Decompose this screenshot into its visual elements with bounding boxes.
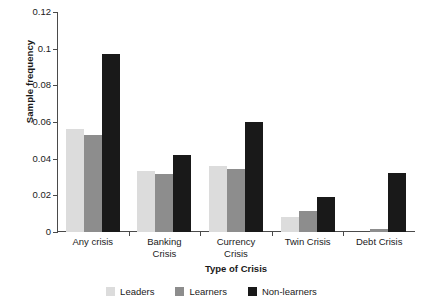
y-tick-label: 0.02 bbox=[3, 191, 51, 201]
plot-area: 00.020.040.060.080.10.12 bbox=[57, 12, 415, 232]
bar-group bbox=[66, 12, 120, 232]
x-axis-title: Type of Crisis bbox=[57, 263, 415, 274]
bar-leaders bbox=[137, 171, 155, 232]
bar-group bbox=[209, 12, 263, 232]
y-tick-label: 0.04 bbox=[3, 154, 51, 164]
x-category-label-line: Any crisis bbox=[57, 236, 129, 248]
bar-non-learners bbox=[388, 173, 406, 232]
bar-learners bbox=[370, 229, 388, 232]
bar-leaders bbox=[281, 217, 299, 232]
bar-non-learners bbox=[102, 54, 120, 232]
legend-item[interactable]: Leaders bbox=[106, 286, 154, 297]
bar-group bbox=[352, 12, 406, 232]
bar-leaders bbox=[66, 129, 84, 232]
bar-learners bbox=[84, 135, 102, 232]
x-category-label: BankingCrisis bbox=[129, 236, 201, 259]
bar-learners bbox=[155, 174, 173, 232]
legend-swatch-icon bbox=[106, 287, 115, 296]
y-tick-label: 0.08 bbox=[3, 81, 51, 91]
bar-non-learners bbox=[173, 155, 191, 232]
bar-groups bbox=[57, 12, 415, 232]
x-category-label-line: Twin Crisis bbox=[272, 236, 344, 248]
x-category-label-line: Crisis bbox=[129, 248, 201, 260]
bar-learners bbox=[299, 211, 317, 232]
x-category-label: CurrencyCrisis bbox=[200, 236, 272, 259]
bar-leaders bbox=[209, 166, 227, 232]
bar-chart: Sample frequency 00.020.040.060.080.10.1… bbox=[0, 0, 423, 308]
bar-learners bbox=[227, 169, 245, 232]
x-category-label: Any crisis bbox=[57, 236, 129, 248]
bar-group bbox=[137, 12, 191, 232]
x-category-label-line: Currency bbox=[200, 236, 272, 248]
y-tick-label: 0 bbox=[3, 227, 51, 237]
legend-item[interactable]: Non-learners bbox=[248, 286, 317, 297]
legend-item[interactable]: Learners bbox=[175, 286, 227, 297]
bar-non-learners bbox=[317, 197, 335, 232]
y-tick-label: 0.1 bbox=[3, 44, 51, 54]
legend-swatch-icon bbox=[248, 287, 257, 296]
legend-label: Leaders bbox=[120, 286, 154, 297]
y-tick-label: 0.12 bbox=[3, 7, 51, 17]
y-tick-mark bbox=[53, 232, 57, 233]
x-category-label-line: Crisis bbox=[200, 248, 272, 260]
legend-label: Learners bbox=[189, 286, 227, 297]
bar-group bbox=[281, 12, 335, 232]
y-tick-label: 0.06 bbox=[3, 117, 51, 127]
x-category-label-line: Debt Crisis bbox=[343, 236, 415, 248]
bar-non-learners bbox=[245, 122, 263, 232]
legend-swatch-icon bbox=[175, 287, 184, 296]
x-category-label: Debt Crisis bbox=[343, 236, 415, 248]
x-category-label: Twin Crisis bbox=[272, 236, 344, 248]
chart-legend: LeadersLearnersNon-learners bbox=[0, 286, 423, 297]
x-category-label-line: Banking bbox=[129, 236, 201, 248]
legend-label: Non-learners bbox=[262, 286, 317, 297]
